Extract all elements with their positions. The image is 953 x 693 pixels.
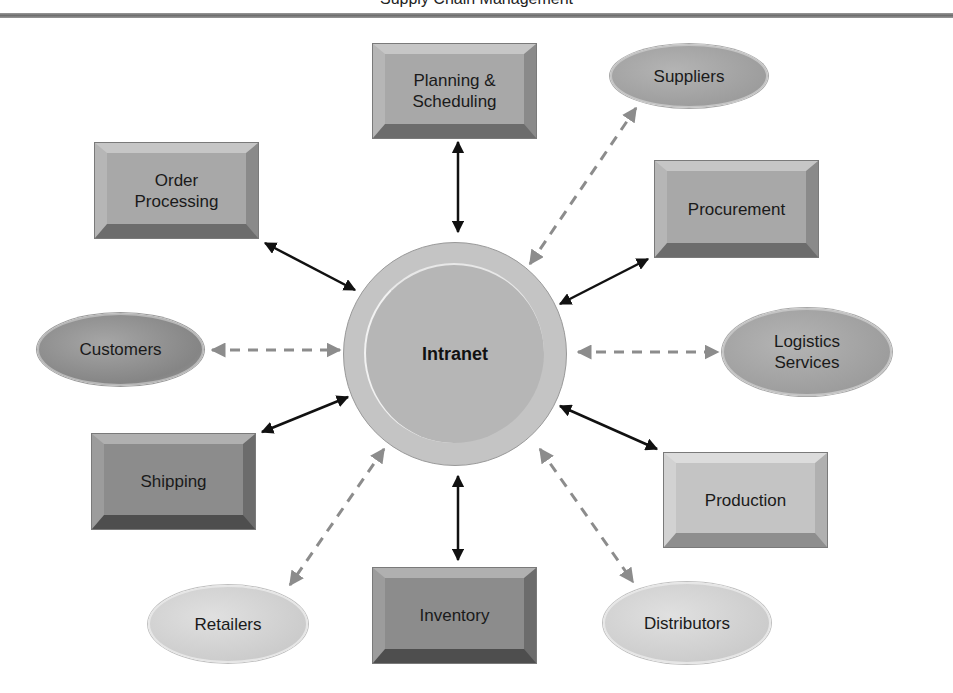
- link-retailers: [290, 449, 384, 585]
- link-order-processing: [265, 243, 355, 290]
- node-suppliers: Suppliers: [610, 44, 768, 108]
- link-suppliers: [530, 108, 636, 264]
- node-distributors: Distributors: [603, 582, 771, 664]
- intranet-hub: Intranet: [343, 242, 567, 466]
- node-label: Procurement: [688, 199, 785, 220]
- node-label: Logistics Services: [774, 331, 840, 373]
- node-logistics-services: Logistics Services: [722, 308, 892, 396]
- link-distributors: [540, 449, 633, 582]
- node-label: Inventory: [420, 605, 490, 626]
- node-order-processing: Order Processing: [94, 142, 259, 239]
- link-procurement: [560, 259, 648, 304]
- intranet-label: Intranet: [344, 243, 566, 465]
- node-label: Shipping: [140, 471, 206, 492]
- node-label: Production: [705, 490, 786, 511]
- node-retailers: Retailers: [148, 585, 308, 663]
- node-customers: Customers: [37, 313, 204, 386]
- node-label: Retailers: [194, 614, 261, 635]
- link-production: [560, 406, 657, 449]
- node-label: Distributors: [644, 613, 730, 634]
- node-production: Production: [663, 452, 828, 548]
- node-label: Suppliers: [654, 66, 725, 87]
- link-shipping: [262, 397, 348, 432]
- node-procurement: Procurement: [654, 160, 819, 258]
- node-label: Order Processing: [134, 170, 218, 212]
- node-label: Customers: [79, 339, 161, 360]
- node-label: Planning & Scheduling: [412, 70, 496, 112]
- node-planning-scheduling: Planning & Scheduling: [372, 43, 537, 139]
- node-shipping: Shipping: [91, 433, 256, 530]
- node-inventory: Inventory: [372, 567, 537, 664]
